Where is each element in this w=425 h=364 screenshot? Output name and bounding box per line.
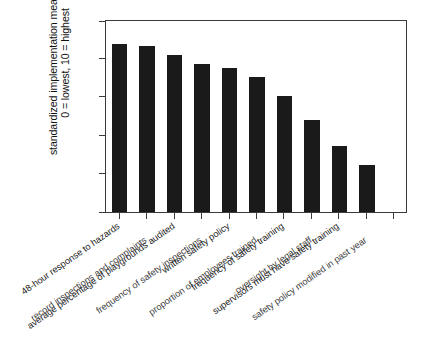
y-axis-title-line-1: standardized implementation measures, [48,0,60,155]
x-tick-mark [311,213,312,219]
x-axis-label: oversight by legal staff [95,236,313,364]
bar [332,146,348,212]
x-axis-label: frequency of safety training [68,222,286,364]
x-axis-label: 48-hour response to hazards [0,222,121,364]
x-tick-mark [283,213,284,219]
bar [194,64,210,212]
x-tick-mark [229,213,230,219]
x-axis-label: proportion of employees trained [40,236,258,364]
x-tick-mark [146,213,147,219]
x-tick-mark [119,213,120,219]
bar [112,44,128,212]
bar-chart-figure: standardized implementation measures, 0 … [0,0,425,364]
bar-series [106,21,406,212]
x-tick-mark [338,213,339,219]
bar [139,46,155,212]
x-tick-mark [256,213,257,219]
x-axis-label: written safety policy [13,222,231,364]
x-axis-label: safety policy modified in past year [150,236,368,364]
cropped-caption [14,357,314,364]
bar [222,68,238,212]
x-axis-label: frequency of safety inspections [0,236,204,364]
x-axis-label: average percentage of playgrounds audite… [0,222,176,364]
x-tick-mark [393,213,394,219]
x-tick-mark [366,213,367,219]
y-axis-title-line-2: 0 = lowest, 10 = highest [60,8,72,118]
x-tick-mark [174,213,175,219]
bar [167,55,183,212]
bar [277,96,293,212]
bar [304,120,320,212]
x-axis-label: record inspections and complaints [0,236,149,364]
bar [359,165,375,212]
y-axis-title: standardized implementation measures, 0 … [44,0,76,163]
bar [249,77,265,212]
x-tick-mark [201,213,202,219]
plot-area [105,20,407,213]
x-axis-label: supervisors must have safety training [123,222,341,364]
